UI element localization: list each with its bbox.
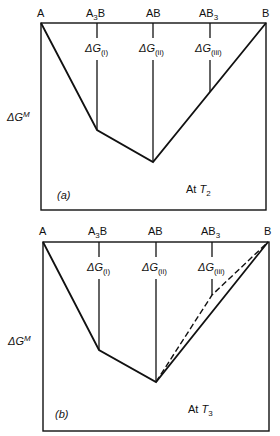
panel-tag-b: (b) xyxy=(55,408,68,420)
panel-a: A A3B AB AB3 B ΔG(i) ΔG(ii) ΔG(iii) ΔGM … xyxy=(0,0,280,215)
composition-label-ab: AB xyxy=(148,225,163,237)
composition-label-ab: AB xyxy=(146,7,161,19)
composition-label-a: A xyxy=(39,225,46,237)
panel-tag-a: (a) xyxy=(57,189,70,201)
delta-g-i-label-a: ΔG(i) xyxy=(85,42,108,54)
composition-label-a3b: A3B xyxy=(86,7,105,19)
composition-label-ab3: AB3 xyxy=(201,225,220,237)
gibbs-energy-diagram-a xyxy=(0,0,280,215)
panel-b: A A3B AB AB3 B ΔG(i) ΔG(ii) ΔG(iii) ΔGM … xyxy=(0,220,280,436)
delta-g-ii-label-b: ΔG(ii) xyxy=(142,261,167,273)
gibbs-energy-diagram-b xyxy=(0,220,280,436)
composition-label-ab3: AB3 xyxy=(199,7,218,19)
delta-g-i-label-b: ΔG(i) xyxy=(87,261,110,273)
temperature-label-a: At T2 xyxy=(186,183,211,195)
composition-label-a3b: A3B xyxy=(88,225,107,237)
delta-g-iii-label-b: ΔG(iii) xyxy=(198,261,225,273)
delta-g-iii-label-a: ΔG(iii) xyxy=(195,42,222,54)
composition-label-b: B xyxy=(264,225,271,237)
y-axis-label-b: ΔGM xyxy=(8,335,31,347)
composition-label-b: B xyxy=(262,7,269,19)
delta-g-ii-label-a: ΔG(ii) xyxy=(139,42,164,54)
temperature-label-b: At T3 xyxy=(188,403,213,415)
y-axis-label-a: ΔGM xyxy=(7,111,30,123)
composition-label-a: A xyxy=(37,7,44,19)
